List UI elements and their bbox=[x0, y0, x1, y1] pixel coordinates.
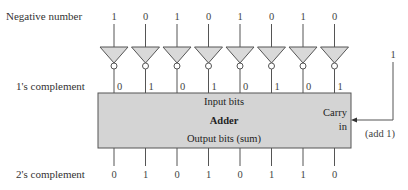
twos-complement-bit: 1 bbox=[269, 169, 274, 180]
inverter-gate-icon bbox=[163, 47, 191, 63]
twos-complement-bit: 1 bbox=[206, 169, 211, 180]
inverter-gate-icon bbox=[258, 47, 286, 63]
inversion-bubble-icon bbox=[111, 63, 117, 69]
inverter-gate-icon bbox=[195, 47, 223, 63]
inverter-gate-icon bbox=[226, 47, 254, 63]
twos-complement-bit: 0 bbox=[174, 169, 179, 180]
carry-arrow-icon bbox=[351, 118, 357, 123]
ones-complement-bit: 1 bbox=[338, 81, 343, 92]
adder-input-label: Input bits bbox=[204, 96, 244, 107]
negative-bit: 0 bbox=[143, 11, 148, 22]
label-negative-number: Negative number bbox=[6, 10, 82, 22]
label-ones-complement: 1's complement bbox=[16, 80, 85, 92]
twos-complement-diagram: Negative number 1's complement 2's compl… bbox=[0, 0, 408, 190]
inverter-gate-icon bbox=[321, 47, 349, 63]
inversion-bubble-icon bbox=[206, 63, 212, 69]
ones-complement-bit: 0 bbox=[243, 81, 248, 92]
carry-in-label: in bbox=[339, 121, 348, 132]
negative-bit: 1 bbox=[174, 11, 179, 22]
twos-complement-bit: 0 bbox=[237, 169, 242, 180]
carry-label: Carry bbox=[323, 107, 348, 118]
ones-complement-bit: 1 bbox=[212, 81, 217, 92]
inversion-bubble-icon bbox=[237, 63, 243, 69]
twos-complement-bit: 1 bbox=[300, 169, 305, 180]
adder-output-label: Output bits (sum) bbox=[187, 133, 262, 145]
add-one-note: (add 1) bbox=[365, 128, 396, 140]
inverter-gate-icon bbox=[289, 47, 317, 63]
adder-title: Adder bbox=[210, 115, 239, 126]
inverter-gate-icon bbox=[132, 47, 160, 63]
inversion-bubble-icon bbox=[269, 63, 275, 69]
negative-bit: 1 bbox=[111, 11, 116, 22]
twos-complement-bit: 0 bbox=[332, 169, 337, 180]
negative-bit: 1 bbox=[300, 11, 305, 22]
twos-complement-bit: 1 bbox=[143, 169, 148, 180]
carry-line bbox=[355, 62, 393, 120]
inversion-bubble-icon bbox=[143, 63, 149, 69]
negative-bit: 0 bbox=[332, 11, 337, 22]
carry-value: 1 bbox=[390, 49, 395, 60]
ones-complement-bit: 1 bbox=[275, 81, 280, 92]
ones-complement-bit: 0 bbox=[117, 81, 122, 92]
ones-complement-bit: 1 bbox=[149, 81, 154, 92]
inversion-bubble-icon bbox=[332, 63, 338, 69]
inversion-bubble-icon bbox=[300, 63, 306, 69]
negative-bit: 0 bbox=[269, 11, 274, 22]
negative-bit: 1 bbox=[237, 11, 242, 22]
ones-complement-bit: 0 bbox=[306, 81, 311, 92]
twos-complement-bit: 0 bbox=[111, 169, 116, 180]
label-twos-complement: 2's complement bbox=[16, 168, 85, 180]
inverter-gate-icon bbox=[100, 47, 128, 63]
negative-bit: 0 bbox=[206, 11, 211, 22]
inversion-bubble-icon bbox=[174, 63, 180, 69]
ones-complement-bit: 0 bbox=[180, 81, 185, 92]
